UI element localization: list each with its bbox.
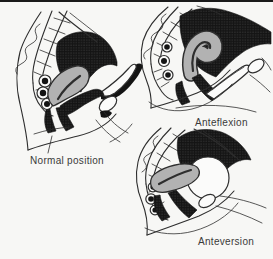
figure-anteflexion [141,6,271,112]
label-anteflexion: Anteflexion [195,117,248,128]
figure-normal-position [16,11,143,153]
back-outline [17,12,41,150]
spinous-processes [142,136,158,172]
rectum-band [154,195,170,221]
thigh-line-2 [176,105,256,112]
label-normal-position: Normal position [30,155,104,166]
label-anteversion: Anteversion [198,236,254,247]
uterine-positions-diagram [0,0,273,259]
spinous-processes [16,24,40,74]
thigh-line-1 [220,196,266,208]
diagram-page: Normal position Anteflexion Anteversion [0,0,273,259]
thigh-line-2 [216,206,262,223]
thigh-line-3 [110,124,132,142]
figure-anteversion [137,128,266,235]
vagina-band [168,190,197,218]
rectal-sections [159,42,174,80]
thigh-line-1 [250,75,270,92]
spine-posterior-line [33,11,52,83]
label-leader-line [48,136,52,153]
rectum-band [176,81,190,105]
